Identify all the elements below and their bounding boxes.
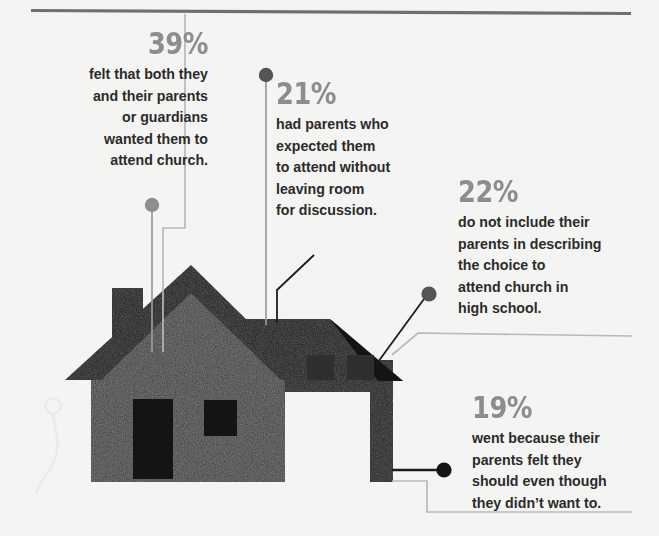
callout-39-percent: 39%: [37, 28, 208, 59]
connector-19-dot: [436, 462, 451, 477]
infographic-canvas: 39% felt that both they and their parent…: [0, 0, 659, 536]
connector-22-leader: [378, 299, 424, 362]
callout-19-percent: 19%: [472, 392, 643, 423]
callout-39-text: felt that both they and their parents or…: [22, 64, 208, 172]
top-divider-rule: [31, 11, 631, 14]
callout-22: 22% do not include their parents in desc…: [458, 176, 656, 320]
connector-21-dot: [259, 68, 273, 82]
callout-19: 19% went because their parents felt they…: [472, 392, 658, 514]
callout-21-percent: 21%: [276, 78, 442, 109]
callout-19-text: went because their parents felt they sho…: [472, 428, 658, 514]
callout-22-text: do not include their parents in describi…: [458, 212, 656, 320]
connector-22-light: [392, 333, 632, 355]
callout-21-text: had parents who expected them to attend …: [276, 114, 456, 222]
connector-21-leader: [277, 255, 314, 323]
callout-22-percent: 22%: [458, 176, 640, 207]
callout-39: 39% felt that both they and their parent…: [22, 28, 208, 172]
connector-39-dot: [145, 198, 159, 212]
connector-22-dot: [421, 286, 436, 301]
callout-21: 21% had parents who expected them to att…: [276, 78, 456, 222]
